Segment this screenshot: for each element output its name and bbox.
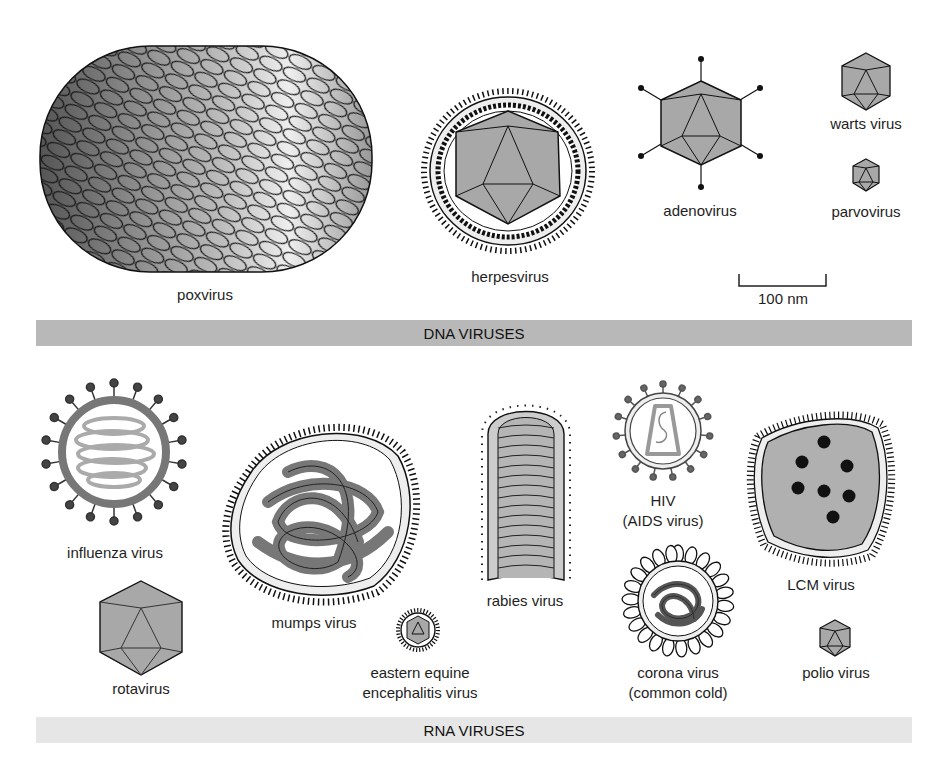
parvovirus-label: parvovirus [811,203,921,221]
mumps-virus-icon [218,412,428,608]
polio-virus-label: polio virus [781,664,891,682]
hiv-label-line2: (AIDS virus) [603,512,723,530]
scale-bar [738,274,828,288]
rna-viruses-header: RNA VIRUSES [36,717,912,743]
rotavirus-icon [98,580,184,676]
eastern-equine-encephalitis-label-line1: eastern equine [350,664,490,682]
warts-virus-icon [840,52,892,112]
scale-bar-label: 100 nm [738,290,828,308]
eastern-equine-encephalitis-label-line2: encephalitis virus [340,684,500,702]
influenza-virus-icon [40,378,188,526]
poxvirus-label: poxvirus [150,286,260,304]
herpesvirus-icon [418,86,598,256]
lcm-virus-label: LCM virus [766,576,876,594]
parvovirus-icon [852,158,880,192]
poxvirus-icon [38,40,374,280]
eastern-equine-encephalitis-virus-icon [396,608,440,652]
corona-virus-label-line2: (common cold) [613,684,743,702]
rotavirus-label: rotavirus [86,680,196,698]
dna-viruses-header: DNA VIRUSES [36,320,912,346]
adenovirus-label: adenovirus [645,202,755,220]
rabies-virus-icon [478,386,574,582]
rabies-virus-label: rabies virus [470,592,580,610]
corona-virus-icon [622,545,734,657]
corona-virus-label-line1: corona virus [623,664,733,682]
hiv-label-line1: HIV [608,492,718,510]
adenovirus-icon [636,54,766,192]
herpesvirus-label: herpesvirus [455,268,565,286]
hiv-icon [612,380,714,482]
mumps-virus-label: mumps virus [254,614,374,632]
warts-virus-label: warts virus [811,115,921,133]
influenza-virus-label: influenza virus [40,544,190,562]
lcm-virus-icon [744,400,898,568]
polio-virus-icon [818,619,852,657]
